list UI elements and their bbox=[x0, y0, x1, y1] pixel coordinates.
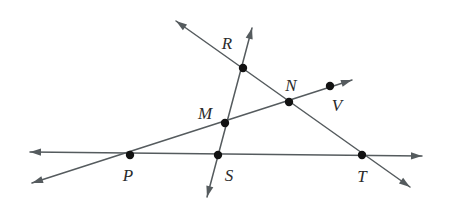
line-through-R-M-S-arrowhead-end-icon bbox=[206, 185, 213, 197]
point-label-S: S bbox=[225, 167, 234, 184]
line-through-P-M-N-V-arrowhead-start-icon bbox=[32, 176, 44, 183]
point-label-P: P bbox=[123, 167, 133, 184]
points-group bbox=[126, 64, 366, 159]
point-P bbox=[126, 151, 134, 159]
line-through-P-M-N-V bbox=[32, 80, 352, 183]
point-label-N: N bbox=[285, 77, 296, 94]
point-R bbox=[239, 64, 247, 72]
line-through-R-N-T-arrowhead-end-icon bbox=[399, 178, 410, 187]
line-through-R-N-T-arrowhead-start-icon bbox=[176, 21, 187, 30]
point-T bbox=[358, 151, 366, 159]
horizontal-line-through-P-S-T-arrowhead-end-icon bbox=[411, 152, 422, 159]
point-S bbox=[214, 151, 222, 159]
geometry-diagram: RNVMPST bbox=[0, 0, 456, 217]
point-label-M: M bbox=[198, 105, 212, 122]
line-through-R-M-S-arrowhead-start-icon bbox=[246, 28, 253, 40]
point-label-T: T bbox=[357, 168, 366, 185]
line-through-P-M-N-V-arrowhead-end-icon bbox=[340, 80, 352, 87]
horizontal-line-through-P-S-T-arrowhead-start-icon bbox=[30, 149, 41, 156]
point-V bbox=[326, 82, 334, 90]
point-N bbox=[285, 98, 293, 106]
point-M bbox=[221, 119, 229, 127]
point-label-R: R bbox=[222, 35, 232, 52]
point-label-V: V bbox=[332, 97, 342, 114]
